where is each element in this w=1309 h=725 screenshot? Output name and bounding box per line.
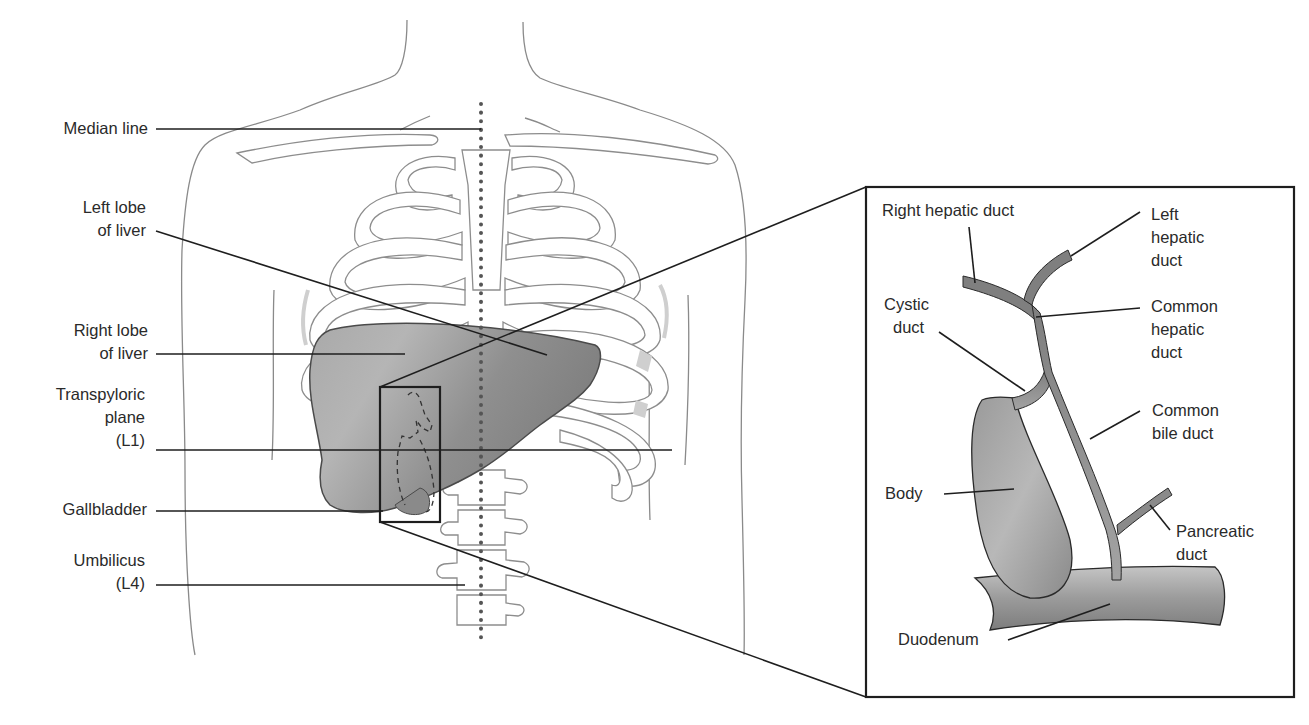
label-left-lobe-of-liver: Left lobe of liver bbox=[20, 196, 146, 242]
label-right-lobe-of-liver: Right lobe of liver bbox=[20, 319, 148, 365]
label-right-hepatic-duct: Right hepatic duct bbox=[882, 199, 1014, 222]
label-duodenum: Duodenum bbox=[898, 628, 979, 651]
label-common-hepatic-duct: Common hepatic duct bbox=[1151, 295, 1218, 364]
anatomy-diagram bbox=[0, 0, 1309, 725]
label-median-line: Median line bbox=[20, 117, 148, 140]
liver bbox=[310, 323, 601, 512]
label-left-hepatic-duct: Left hepatic duct bbox=[1151, 203, 1204, 272]
label-cystic-duct: Cystic duct bbox=[884, 293, 929, 339]
label-gallbladder: Gallbladder bbox=[10, 498, 147, 521]
label-common-bile-duct: Common bile duct bbox=[1152, 399, 1219, 445]
label-transpyloric-plane: Transpyloric plane (L1) bbox=[10, 383, 145, 452]
label-umbilicus: Umbilicus (L4) bbox=[10, 549, 145, 595]
label-body: Body bbox=[885, 482, 923, 505]
label-pancreatic-duct: Pancreatic duct bbox=[1176, 520, 1254, 566]
